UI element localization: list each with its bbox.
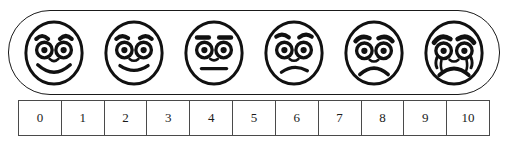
scale-cell-1[interactable]: 1 bbox=[62, 101, 105, 135]
scale-cell-0[interactable]: 0 bbox=[19, 101, 62, 135]
scale-cell-3[interactable]: 3 bbox=[147, 101, 190, 135]
smiley-face-frown-icon bbox=[257, 16, 331, 90]
faces-pain-rating-scale: 0 1 2 3 4 5 6 7 8 9 10 bbox=[0, 0, 509, 144]
face-option-3[interactable] bbox=[257, 16, 331, 90]
tear-left-icon bbox=[436, 57, 437, 67]
face-option-5[interactable] bbox=[417, 16, 491, 90]
scale-cell-2[interactable]: 2 bbox=[105, 101, 148, 135]
smiley-face-neutral-icon bbox=[177, 16, 251, 90]
tear-right-icon bbox=[471, 57, 472, 67]
numeric-rating-scale: 0 1 2 3 4 5 6 7 8 9 10 bbox=[18, 100, 490, 136]
smiley-face-sad-icon bbox=[337, 16, 411, 90]
face-option-2[interactable] bbox=[177, 16, 251, 90]
tear-right-inner-icon bbox=[466, 60, 467, 71]
scale-cell-5[interactable]: 5 bbox=[233, 101, 276, 135]
smiley-face-smile-icon bbox=[97, 16, 171, 90]
scale-cell-10[interactable]: 10 bbox=[447, 101, 489, 135]
smiley-face-happy-icon bbox=[17, 16, 91, 90]
face-option-0[interactable] bbox=[17, 16, 91, 90]
smiley-face-crying-icon bbox=[417, 16, 491, 90]
scale-cell-6[interactable]: 6 bbox=[276, 101, 319, 135]
scale-cell-9[interactable]: 9 bbox=[404, 101, 447, 135]
face-option-4[interactable] bbox=[337, 16, 411, 90]
scale-cell-8[interactable]: 8 bbox=[362, 101, 405, 135]
scale-cell-7[interactable]: 7 bbox=[319, 101, 362, 135]
face-option-1[interactable] bbox=[97, 16, 171, 90]
faces-row bbox=[8, 10, 500, 95]
scale-cell-4[interactable]: 4 bbox=[190, 101, 233, 135]
tear-left-inner-icon bbox=[441, 60, 442, 71]
